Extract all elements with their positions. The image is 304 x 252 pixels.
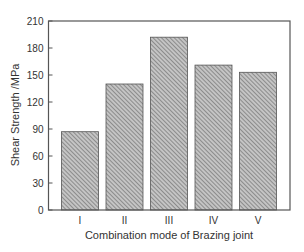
x-tick-label: IV — [209, 215, 219, 226]
x-tick-label: III — [165, 215, 173, 226]
x-axis-ticks: IIIIIIIVV — [79, 215, 262, 226]
bar-IV — [195, 65, 232, 210]
x-tick-label: II — [122, 215, 128, 226]
bars — [62, 37, 277, 210]
y-tick-label: 90 — [32, 124, 44, 135]
y-axis-label: Shear Strength /MPa — [9, 63, 21, 167]
x-tick-label: V — [255, 215, 262, 226]
y-tick-label: 60 — [32, 151, 44, 162]
x-axis-label: Combination mode of Brazing joint — [85, 229, 253, 241]
bar-V — [240, 72, 277, 210]
y-tick-label: 0 — [38, 205, 44, 216]
bar-I — [62, 132, 99, 210]
bar-II — [106, 84, 143, 210]
y-tick-label: 210 — [27, 16, 44, 27]
bar-chart: 0306090120150180210 IIIIIIIVV Combinatio… — [0, 0, 304, 252]
y-tick-label: 30 — [32, 178, 44, 189]
y-tick-label: 120 — [27, 97, 44, 108]
bar-III — [151, 37, 188, 210]
y-tick-label: 150 — [27, 70, 44, 81]
x-tick-label: I — [79, 215, 82, 226]
y-tick-label: 180 — [27, 43, 44, 54]
